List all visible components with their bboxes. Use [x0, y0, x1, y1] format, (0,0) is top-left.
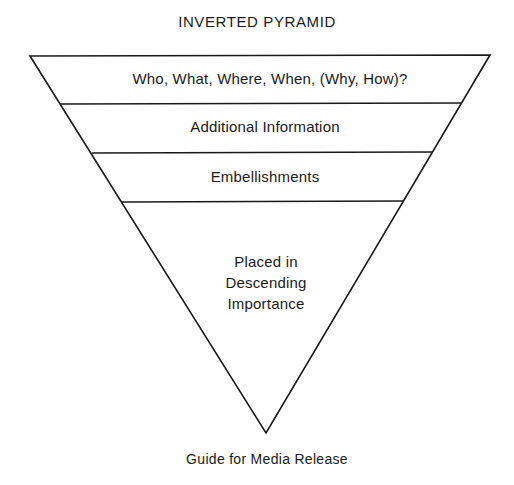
- layer-label-who-what: Who, What, Where, When, (Why, How)?: [60, 70, 480, 87]
- layer-label-additional-information: Additional Information: [92, 118, 438, 135]
- layer-label-line-1: Placed in: [160, 251, 372, 272]
- layer-label-line-3: Importance: [160, 293, 372, 314]
- diagram-caption: Guide for Media Release: [0, 451, 514, 467]
- layer-label-line-2: Descending: [160, 272, 372, 293]
- layer-divider-3: [122, 201, 404, 202]
- layer-label-descending-importance: Placed in Descending Importance: [160, 251, 372, 314]
- pyramid-outline: [30, 55, 490, 433]
- layer-label-embellishments: Embellishments: [120, 168, 410, 185]
- layer-divider-2: [92, 152, 433, 153]
- layer-divider-1: [60, 103, 462, 104]
